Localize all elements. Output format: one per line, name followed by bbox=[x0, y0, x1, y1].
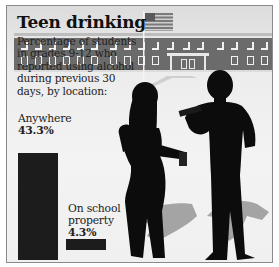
portico-icon bbox=[167, 53, 209, 56]
chart-title: Teen drinking bbox=[17, 12, 146, 32]
label-on-school-property: On school property 4.3% bbox=[68, 203, 120, 239]
teen-boy-silhouette-icon bbox=[179, 70, 256, 260]
teen-girl-silhouette-icon bbox=[119, 82, 187, 258]
value-label: 4.3% bbox=[68, 227, 120, 239]
label-anywhere: Anywhere 43.3% bbox=[18, 113, 71, 137]
value-label: 43.3% bbox=[18, 125, 71, 137]
bar-anywhere bbox=[18, 153, 58, 260]
bar-on-school-property bbox=[66, 239, 106, 250]
chart-subtitle: Percentage of students in grades 9-12 wh… bbox=[17, 35, 145, 97]
infographic-frame: Teen drinking Percentage of students in … bbox=[6, 5, 273, 263]
